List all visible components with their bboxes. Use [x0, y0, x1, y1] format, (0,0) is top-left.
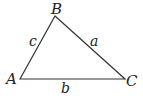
side-label-b: b	[61, 80, 70, 96]
side-label-c: c	[29, 33, 37, 49]
vertex-label-c: C	[126, 72, 138, 90]
vertex-label-a: A	[4, 70, 17, 88]
side-label-a: a	[90, 33, 98, 49]
vertex-label-b: B	[50, 0, 62, 18]
triangle-diagram: A B C a b c	[0, 0, 143, 100]
